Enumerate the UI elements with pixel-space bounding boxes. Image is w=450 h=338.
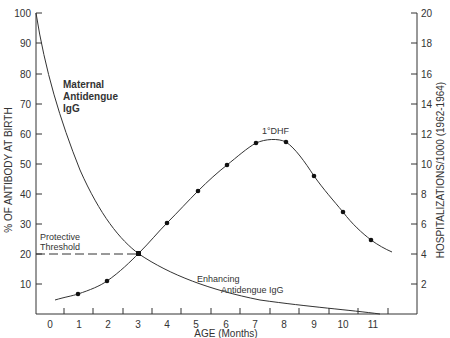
right-axis-ticks [411,13,417,284]
antibody-dhf-chart: 10 20 30 40 50 60 70 80 90 100 2 4 6 8 1… [0,0,450,338]
x-tick-label: 1 [76,319,82,330]
dhf-point [105,279,110,284]
left-tick-label: 40 [20,189,32,200]
maternal-antibody-curve [36,13,380,314]
x-tick-label: 3 [135,319,141,330]
dhf-label: 1°DHF [262,126,290,136]
x-tick-label: 10 [337,319,349,330]
annotation-text: Antidengue [63,91,118,102]
right-tick-label: 18 [421,38,433,49]
left-tick-label: 30 [20,219,32,230]
right-tick-label: 8 [421,189,427,200]
right-axis-tick-labels: 2 4 6 8 10 12 14 16 18 20 [421,8,433,290]
dhf-point [225,163,230,168]
right-tick-label: 14 [421,99,433,110]
x-tick-label: 4 [164,319,170,330]
x-axis-title: AGE (Months) [194,328,257,338]
dhf-point [312,174,317,179]
right-tick-label: 12 [421,129,433,140]
annotation-text: IgG [63,103,80,114]
right-tick-label: 2 [421,279,427,290]
annotation-text: Threshold [40,242,80,252]
dhf-point [196,189,201,194]
left-axis-tick-labels: 10 20 30 40 50 60 70 80 90 100 [14,8,31,290]
right-tick-label: 6 [421,219,427,230]
annotation-text: Enhancing [197,274,240,284]
x-tick-label: 2 [105,319,111,330]
dhf-data-points [76,140,374,297]
left-tick-label: 50 [20,159,32,170]
x-tick-label: 9 [311,319,317,330]
left-tick-label: 100 [14,8,31,19]
protective-threshold-label: Protective Threshold [40,232,80,252]
left-tick-label: 70 [20,99,32,110]
dhf-point [76,292,81,297]
annotation-text: Maternal [63,79,104,90]
maternal-label: Maternal Antidengue IgG [63,79,118,114]
right-tick-label: 16 [421,69,433,80]
right-tick-label: 10 [421,159,433,170]
left-tick-label: 20 [20,249,32,260]
left-axis-title: % OF ANTIBODY AT BIRTH [3,107,14,232]
annotation-text: Protective [40,232,80,242]
annotation-text: Antidengue IgG [221,285,284,295]
x-tick-label: 8 [281,319,287,330]
x-tick-label: 11 [368,319,379,330]
right-axis-title: HOSPITALIZATIONS/1000 (1962-1964) [435,82,446,258]
dhf-point [341,210,346,215]
right-tick-label: 4 [421,249,427,260]
left-tick-label: 80 [20,69,32,80]
right-tick-label: 20 [421,8,433,19]
left-tick-label: 60 [20,129,32,140]
dhf-point [254,141,259,146]
enhancing-label: Enhancing Antidengue IgG [197,274,284,295]
dhf-point [284,140,289,145]
left-tick-label: 90 [20,38,32,49]
dhf-point [369,238,374,243]
x-tick-label: 0 [47,319,53,330]
left-tick-label: 10 [20,279,32,290]
dhf-point [165,221,170,226]
intersection-point [136,251,141,256]
